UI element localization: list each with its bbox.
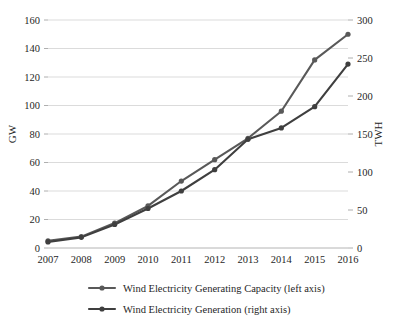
left-axis-tick-label: 0: [35, 243, 40, 254]
left-axis-tick-label: 100: [24, 100, 40, 111]
marker-group: [45, 32, 350, 245]
data-point-marker: [212, 167, 217, 172]
legend-item-label: Wind Electricity Generation (right axis): [123, 304, 291, 316]
left-axis-tickmark-group: [44, 20, 48, 248]
wind-energy-chart-figure: 020406080100120140160 050100150200250300…: [0, 0, 393, 327]
x-axis-tick-label: 2016: [338, 254, 359, 265]
data-point-marker: [79, 235, 84, 240]
x-axis-tick-label: 2011: [171, 254, 192, 265]
chart-canvas: 020406080100120140160 050100150200250300…: [0, 0, 393, 327]
left-axis-tick-label: 120: [24, 72, 40, 83]
right-axis-tick-label: 200: [357, 91, 373, 102]
left-axis-tick-labels: 020406080100120140160: [24, 15, 40, 254]
right-axis-tick-label: 150: [357, 129, 373, 140]
chart-legend: Wind Electricity Generating Capacity (le…: [89, 283, 325, 316]
left-axis-tick-label: 40: [30, 186, 41, 197]
left-axis-tick-label: 60: [30, 157, 41, 168]
data-point-marker: [179, 188, 184, 193]
x-axis-tick-label: 2012: [204, 254, 225, 265]
series-group: [48, 34, 348, 242]
data-point-marker: [345, 61, 350, 66]
data-point-marker: [345, 32, 350, 37]
left-axis-title: GW: [6, 124, 18, 143]
right-axis-tickmark-group: [348, 20, 353, 248]
data-point-marker: [112, 222, 117, 227]
data-point-marker: [45, 239, 50, 244]
x-axis-tick-label: 2007: [38, 254, 59, 265]
gridline-group: [48, 20, 348, 248]
x-axis-tick-label: 2008: [71, 254, 92, 265]
data-point-marker: [179, 178, 184, 183]
right-axis-tick-label: 0: [357, 243, 362, 254]
legend-swatch-marker: [99, 306, 104, 311]
right-axis-tick-labels: 050100150200250300: [357, 15, 373, 254]
data-point-marker: [279, 109, 284, 114]
series-line-2: [48, 64, 348, 242]
left-axis-tick-label: 160: [24, 15, 40, 26]
right-axis-tick-label: 250: [357, 53, 373, 64]
legend-item-label: Wind Electricity Generating Capacity (le…: [123, 283, 325, 295]
left-axis-tick-label: 20: [30, 214, 41, 225]
x-axis-tick-labels: 2007200820092010201120122013201420152016: [38, 254, 359, 265]
x-axis-tick-label: 2015: [304, 254, 325, 265]
data-point-marker: [279, 125, 284, 130]
left-axis-tick-label: 140: [24, 43, 40, 54]
data-point-marker: [312, 104, 317, 109]
x-axis-tick-label: 2014: [271, 254, 293, 265]
data-point-marker: [245, 137, 250, 142]
left-axis-tick-label: 80: [30, 129, 41, 140]
right-axis-tick-label: 50: [357, 205, 368, 216]
right-axis-tick-label: 300: [357, 15, 373, 26]
right-axis-tick-label: 100: [357, 167, 373, 178]
legend-swatch-marker: [99, 285, 104, 290]
x-axis-tick-label: 2010: [138, 254, 159, 265]
right-axis-title: TWH: [372, 121, 384, 146]
x-axis-tick-label: 2013: [238, 254, 259, 265]
x-axis-tick-label: 2009: [104, 254, 125, 265]
series-line-1: [48, 34, 348, 241]
data-point-marker: [145, 206, 150, 211]
data-point-marker: [312, 57, 317, 62]
data-point-marker: [212, 157, 217, 162]
